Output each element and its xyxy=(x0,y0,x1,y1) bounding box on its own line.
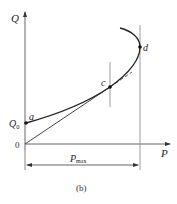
point-a xyxy=(24,121,28,125)
y-axis-label: Q xyxy=(11,12,19,24)
point-c-label: c xyxy=(101,77,106,88)
q0-label: Q0 xyxy=(9,118,19,130)
x-axis-label: P xyxy=(160,147,168,159)
q-p-curve xyxy=(26,28,140,123)
pmax-label: Pmax xyxy=(69,153,86,164)
point-d xyxy=(138,45,142,49)
origin-label: 0 xyxy=(15,140,20,150)
figure-caption: (b) xyxy=(76,183,87,193)
point-d-label: d xyxy=(143,42,149,53)
pmax-arrow-left-icon xyxy=(26,163,32,167)
point-a-label: a xyxy=(29,111,34,122)
point-c xyxy=(108,85,112,89)
diagram-canvas: Q P 0 a c d Q0 Pmax (b) xyxy=(0,0,177,204)
